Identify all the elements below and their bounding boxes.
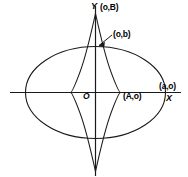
figure-container: Y (o,B) (o,b) (A,o) (a,o) X O (0, 0, 188, 177)
point-label-ellipse-top: (o,b) (113, 30, 130, 39)
x-axis-label: X (166, 94, 172, 103)
point-label-astroid-right: (A,o) (123, 92, 141, 101)
point-label-ellipse-right: (a,o) (159, 82, 176, 91)
y-axis-label: Y (91, 2, 97, 11)
point-label-astroid-top: (o,B) (100, 3, 118, 12)
origin-label: O (83, 92, 89, 101)
